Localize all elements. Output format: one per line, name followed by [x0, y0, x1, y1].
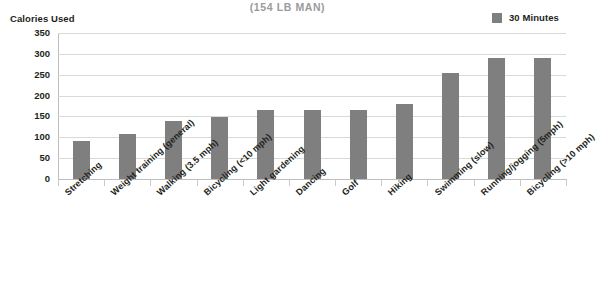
x-tick — [289, 179, 290, 186]
x-tick — [474, 179, 475, 186]
bar[interactable] — [488, 58, 505, 179]
legend-item-label: 30 Minutes — [509, 12, 559, 23]
x-tick — [58, 179, 59, 186]
x-tick — [427, 179, 428, 186]
bar[interactable] — [534, 58, 551, 179]
x-tick — [520, 179, 521, 186]
x-tick — [150, 179, 151, 186]
y-tick-label-0: 0 — [6, 173, 50, 184]
x-tick — [197, 179, 198, 186]
bar[interactable] — [350, 110, 367, 179]
x-tick — [566, 179, 567, 186]
bar[interactable] — [396, 104, 413, 179]
x-tick — [335, 179, 336, 186]
y-tick-label-350: 350 — [6, 27, 50, 38]
y-tick-label-100: 100 — [6, 131, 50, 142]
x-tick — [104, 179, 105, 186]
bar[interactable] — [442, 73, 459, 179]
y-tick-label-300: 300 — [6, 48, 50, 59]
x-axis-label[interactable]: Golf — [340, 178, 360, 198]
x-tick — [381, 179, 382, 186]
bar-series-30-minutes — [58, 33, 566, 179]
x-tick — [243, 179, 244, 186]
y-tick-label-50: 50 — [6, 152, 50, 163]
y-tick-label-250: 250 — [6, 69, 50, 80]
chart-title: (154 LB MAN) — [0, 1, 575, 13]
y-tick-label-200: 200 — [6, 90, 50, 101]
y-tick-label-150: 150 — [6, 110, 50, 121]
legend-swatch-icon — [492, 13, 502, 23]
y-axis-title: Calories Used — [10, 13, 75, 24]
chart-legend: 30 Minutes — [492, 12, 559, 23]
